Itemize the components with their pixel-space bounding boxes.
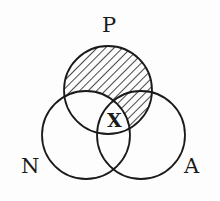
venn-diagram: P N A X [0, 0, 220, 201]
label-n: N [21, 154, 39, 178]
label-a: A [183, 154, 200, 178]
marker-x: X [107, 109, 122, 131]
label-p: P [102, 13, 116, 37]
venn-svg: P N A X [0, 0, 220, 201]
